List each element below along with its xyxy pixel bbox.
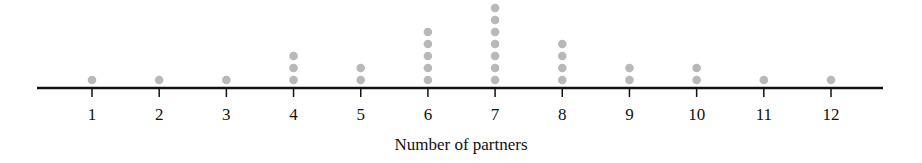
tick-label: 7 (491, 105, 500, 124)
tick-label: 5 (356, 105, 365, 124)
data-dot (289, 52, 298, 61)
data-dot (827, 76, 836, 85)
x-axis-ticks: 123456789101112 (88, 88, 840, 124)
data-dot (558, 40, 567, 49)
data-dots (88, 4, 836, 85)
data-dot (491, 28, 500, 37)
data-dot (692, 76, 701, 85)
data-dot (491, 52, 500, 61)
tick-label: 1 (88, 105, 97, 124)
data-dot (491, 76, 500, 85)
tick-label: 4 (289, 105, 298, 124)
tick-label: 12 (823, 105, 840, 124)
data-dot (625, 64, 634, 73)
data-dot (491, 4, 500, 13)
data-dot (155, 76, 164, 85)
tick-label: 11 (756, 105, 772, 124)
data-dot (424, 76, 433, 85)
data-dot (289, 76, 298, 85)
data-dot (356, 76, 365, 85)
data-dot (558, 52, 567, 61)
data-dot (491, 40, 500, 49)
tick-label: 9 (625, 105, 634, 124)
data-dot (222, 76, 231, 85)
data-dot (558, 64, 567, 73)
data-dot (625, 76, 634, 85)
data-dot (289, 64, 298, 73)
data-dot (491, 64, 500, 73)
data-dot (760, 76, 769, 85)
data-dot (692, 64, 701, 73)
x-axis-label: Number of partners (0, 135, 922, 155)
data-dot (424, 52, 433, 61)
data-dot (424, 28, 433, 37)
data-dot (424, 40, 433, 49)
tick-label: 8 (558, 105, 567, 124)
data-dot (491, 16, 500, 25)
tick-label: 6 (424, 105, 433, 124)
data-dot (558, 76, 567, 85)
data-dot (356, 64, 365, 73)
tick-label: 10 (688, 105, 705, 124)
data-dot (88, 76, 97, 85)
tick-label: 2 (155, 105, 164, 124)
tick-label: 3 (222, 105, 231, 124)
data-dot (424, 64, 433, 73)
